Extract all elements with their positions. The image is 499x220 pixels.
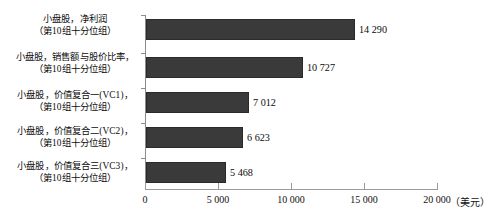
category-label-2: 小盘股，价值复合一(VC1)， （第10组十分位组） (4, 90, 146, 113)
category-label-4-line1: 小盘股，价值复合三(VC3)， (4, 161, 146, 173)
plot-area: 14 290 10 727 7 012 6 623 5 468 0 5 000 … (145, 8, 445, 186)
bar-value-3: 6 623 (247, 127, 270, 148)
category-label-0-line1: 小盘股，净利润 (4, 14, 146, 26)
bar-value-2: 7 012 (253, 92, 276, 113)
category-label-0-line2: （第10组十分位组） (4, 26, 146, 38)
x-axis-line (145, 189, 438, 190)
x-axis-tick-0 (145, 183, 146, 189)
y-axis-tick-2 (141, 88, 146, 89)
bar-value-0: 14 290 (359, 19, 387, 40)
category-label-1-line2: （第10组十分位组） (4, 64, 146, 76)
bar-chart: 小盘股，净利润 （第10组十分位组） 小盘股，销售额与股价比率， （第10组十分… (0, 0, 499, 220)
category-label-3-line1: 小盘股，价值复合二(VC2)， (4, 126, 146, 138)
bar-value-1: 10 727 (307, 57, 335, 78)
x-axis-tick-label-0: 0 (143, 194, 148, 205)
category-label-4: 小盘股，价值复合三(VC3)， （第10组十分位组） (4, 161, 146, 184)
x-axis-unit-label: （美元） (450, 194, 490, 209)
x-axis-tick-3 (364, 183, 365, 189)
category-label-3: 小盘股，价值复合二(VC2)， （第10组十分位组） (4, 126, 146, 149)
bar-3 (146, 127, 243, 148)
x-axis-tick-1 (218, 183, 219, 189)
x-axis-tick-label-1: 5 000 (207, 194, 230, 205)
x-axis-tick-4 (437, 183, 438, 189)
bar-0 (146, 19, 355, 40)
x-axis-tick-2 (291, 183, 292, 189)
category-label-1-line1: 小盘股，销售额与股价比率， (4, 52, 146, 64)
bar-1 (146, 57, 303, 78)
bar-2 (146, 92, 249, 113)
category-label-2-line2: （第10组十分位组） (4, 102, 146, 114)
category-label-4-line2: （第10组十分位组） (4, 173, 146, 185)
y-axis-tick-1 (141, 53, 146, 54)
category-label-2-line1: 小盘股，价值复合一(VC1)， (4, 90, 146, 102)
category-label-3-line2: （第10组十分位组） (4, 138, 146, 150)
category-label-0: 小盘股，净利润 （第10组十分位组） (4, 14, 146, 37)
x-axis-tick-label-3: 15 000 (350, 194, 378, 205)
x-axis-tick-label-4: 20 000 (423, 194, 451, 205)
y-axis-tick-0 (141, 15, 146, 16)
category-label-1: 小盘股，销售额与股价比率， （第10组十分位组） (4, 52, 146, 75)
y-axis-tick-4 (141, 158, 146, 159)
bar-4 (146, 162, 226, 183)
bar-value-4: 5 468 (230, 162, 253, 183)
y-axis-tick-3 (141, 123, 146, 124)
x-axis-tick-label-2: 10 000 (277, 194, 305, 205)
